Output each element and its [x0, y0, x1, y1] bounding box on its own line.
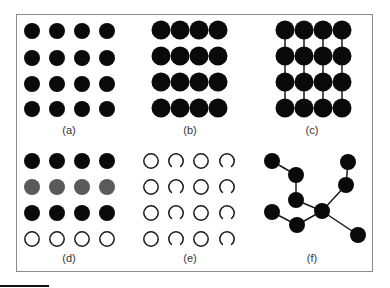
- particle-c: [314, 73, 333, 92]
- particle-c: [333, 73, 352, 92]
- particle-b: [190, 73, 209, 92]
- network-node: [289, 217, 305, 233]
- particle-c: [276, 47, 295, 66]
- particle-e: [194, 206, 208, 220]
- particle-b: [190, 21, 209, 40]
- particle-b: [171, 73, 190, 92]
- particle-b: [190, 99, 209, 118]
- particle-c: [295, 99, 314, 118]
- particle-d: [49, 179, 65, 195]
- particle-e: [144, 180, 158, 194]
- particle-e: [144, 154, 158, 168]
- particle-b: [152, 99, 171, 118]
- particle-a: [24, 50, 40, 66]
- network-node: [264, 204, 280, 220]
- particle-d: [25, 232, 39, 246]
- particle-d: [24, 153, 40, 169]
- particle-d: [24, 179, 40, 195]
- particle-e: [169, 180, 183, 193]
- particle-a: [99, 101, 115, 117]
- particle-a: [74, 50, 90, 66]
- particle-c: [333, 99, 352, 118]
- particle-d: [24, 205, 40, 221]
- diagram-canvas: [0, 0, 390, 288]
- particle-a: [74, 23, 90, 39]
- particle-b: [171, 21, 190, 40]
- particle-e: [144, 206, 158, 220]
- network-node: [288, 192, 304, 208]
- particle-a: [99, 50, 115, 66]
- particle-b: [171, 47, 190, 66]
- particle-b: [209, 47, 228, 66]
- particle-d: [74, 153, 90, 169]
- particle-d: [99, 153, 115, 169]
- network-node: [288, 167, 304, 183]
- particle-d: [100, 232, 114, 246]
- particle-a: [74, 76, 90, 92]
- particle-d: [74, 179, 90, 195]
- particle-e: [194, 154, 208, 168]
- particle-d: [99, 205, 115, 221]
- particle-e: [144, 232, 158, 246]
- panel-label-a: (a): [62, 124, 75, 136]
- particle-e: [220, 154, 234, 167]
- figure: (a) (b) (c) (d) (e) (f): [0, 0, 390, 288]
- particle-e: [194, 232, 208, 246]
- particle-d: [49, 153, 65, 169]
- network-node: [338, 177, 354, 193]
- particle-d: [49, 205, 65, 221]
- network-node: [350, 227, 366, 243]
- particle-c: [295, 47, 314, 66]
- particle-e: [169, 206, 183, 219]
- panel-label-d: (d): [62, 252, 75, 264]
- particle-c: [276, 99, 295, 118]
- panel-label-c: (c): [306, 124, 319, 136]
- particle-e: [220, 232, 234, 245]
- particle-a: [49, 23, 65, 39]
- particle-b: [152, 21, 171, 40]
- particle-b: [190, 47, 209, 66]
- particle-e: [169, 154, 183, 167]
- particle-c: [276, 73, 295, 92]
- panel-label-e: (e): [183, 252, 196, 264]
- particle-b: [171, 99, 190, 118]
- particle-d: [99, 179, 115, 195]
- particle-e: [220, 180, 234, 193]
- particle-b: [209, 73, 228, 92]
- particle-d: [74, 205, 90, 221]
- particle-b: [152, 73, 171, 92]
- particle-d: [50, 232, 64, 246]
- particle-e: [194, 180, 208, 194]
- network-node: [264, 153, 280, 169]
- particle-a: [74, 101, 90, 117]
- particle-a: [24, 101, 40, 117]
- particle-d: [75, 232, 89, 246]
- particle-e: [169, 232, 183, 245]
- particle-c: [295, 21, 314, 40]
- particle-a: [24, 23, 40, 39]
- network-node: [340, 154, 356, 170]
- particle-b: [209, 99, 228, 118]
- panel-label-b: (b): [183, 124, 196, 136]
- particle-b: [209, 21, 228, 40]
- particle-a: [49, 50, 65, 66]
- particle-c: [333, 47, 352, 66]
- panel-label-f: (f): [307, 252, 317, 264]
- particle-c: [314, 47, 333, 66]
- footer-rule: [0, 285, 49, 287]
- particle-e: [220, 206, 234, 219]
- particle-a: [49, 76, 65, 92]
- particle-c: [314, 99, 333, 118]
- particle-a: [99, 76, 115, 92]
- particle-a: [24, 76, 40, 92]
- particle-a: [49, 101, 65, 117]
- particle-b: [152, 47, 171, 66]
- particle-c: [333, 21, 352, 40]
- particle-a: [99, 23, 115, 39]
- network-node: [314, 203, 330, 219]
- particle-c: [314, 21, 333, 40]
- particle-c: [295, 73, 314, 92]
- particle-c: [276, 21, 295, 40]
